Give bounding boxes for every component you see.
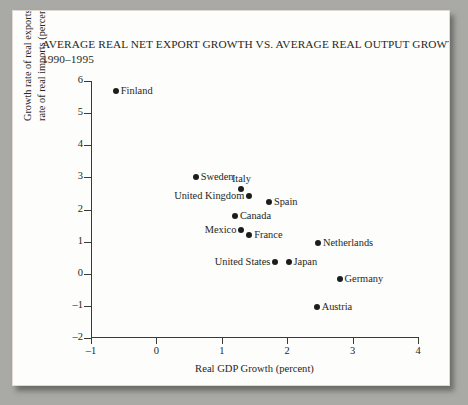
data-point [272,259,278,265]
data-point [246,193,252,199]
data-point [246,232,252,238]
y-axis-label-line1: Growth rate of real exports minus growth [21,10,35,121]
x-tick [353,337,354,344]
data-point [232,213,238,219]
data-point-label: Germany [345,274,384,284]
x-tick-label: 4 [407,345,429,356]
y-tick-label: 4 [63,138,83,149]
y-tick [84,242,91,243]
data-point [315,240,321,246]
y-tick-label: 3 [63,170,83,181]
y-tick-label: 2 [63,203,83,214]
chart-title-block: AVERAGE REAL NET EXPORT GROWTH VS. AVERA… [42,37,422,66]
x-axis-line [91,337,418,338]
x-tick [91,337,92,344]
data-point [286,259,292,265]
y-tick [84,145,91,146]
data-point [113,88,119,94]
x-tick-label: 3 [342,345,364,356]
data-point-label: Canada [240,211,271,221]
x-tick [156,337,157,344]
x-tick-label: –1 [80,345,102,356]
x-axis-label: Real GDP Growth (percent) [91,363,418,374]
x-tick [418,337,419,344]
data-point [337,276,343,282]
data-point [314,304,320,310]
x-tick-label: 2 [276,345,298,356]
data-point-label: Spain [274,197,298,207]
data-point [193,174,199,180]
data-point-label: France [254,230,282,240]
data-point-label: Mexico [205,225,237,235]
data-point [266,199,272,205]
y-tick [84,210,91,211]
scatter-plot: Growth rate of real exports minus growth… [91,81,418,338]
y-tick [84,113,91,114]
data-point [238,227,244,233]
data-point-label: United States [215,257,271,267]
y-axis-label: Growth rate of real exports minus growth… [21,10,48,121]
page-title: AVERAGE REAL NET EXPORT GROWTH VS. AVERA… [42,37,422,52]
y-tick-label: 1 [63,235,83,246]
y-tick [84,274,91,275]
data-point-label: Japan [294,257,318,267]
x-tick-label: 1 [211,345,233,356]
y-tick [84,338,91,339]
y-axis-line [91,81,92,338]
y-tick [84,177,91,178]
data-point-label: Austria [322,302,353,312]
data-point-label: Italy [232,174,251,184]
x-tick-label: 0 [145,345,167,356]
data-point-label: Finland [121,86,153,96]
y-tick-label: 0 [63,267,83,278]
scanned-page: AVERAGE REAL NET EXPORT GROWTH VS. AVERA… [12,10,450,386]
data-point-label: Sweden [201,172,234,182]
y-axis-label-line2: rate of real imports (percent) [35,10,49,121]
x-tick [287,337,288,344]
data-point-label: United Kingdom [174,191,244,201]
y-tick-label: –1 [63,299,83,310]
y-tick [84,81,91,82]
page-subtitle: 1990–1995 [42,52,422,67]
x-tick [222,337,223,344]
y-tick-label: 5 [63,106,83,117]
y-tick-label: –2 [63,331,83,342]
y-tick [84,306,91,307]
y-tick-label: 6 [63,74,83,85]
data-point-label: Netherlands [323,238,373,248]
